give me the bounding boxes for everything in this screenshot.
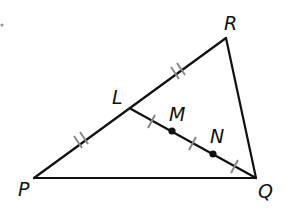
label-r: R <box>224 12 237 34</box>
label-n: N <box>210 125 224 147</box>
label-m: M <box>169 103 185 125</box>
double-tick-pl <box>74 132 88 148</box>
segment-qr <box>226 38 256 178</box>
point-n <box>209 150 216 157</box>
label-q: Q <box>258 180 273 202</box>
triangle-diagram: P Q R L M N <box>0 0 286 209</box>
point-m <box>168 127 175 134</box>
segment-rp <box>34 38 226 178</box>
label-l: L <box>112 86 123 108</box>
label-p: P <box>18 178 30 200</box>
stray-mark <box>0 23 3 26</box>
